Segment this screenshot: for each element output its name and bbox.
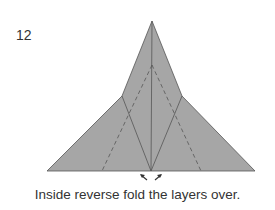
caption: Inside reverse fold the layers over. — [0, 187, 275, 202]
arrow-left-icon — [140, 174, 147, 180]
arrow-right-icon — [155, 174, 162, 180]
origami-diagram — [0, 0, 275, 210]
